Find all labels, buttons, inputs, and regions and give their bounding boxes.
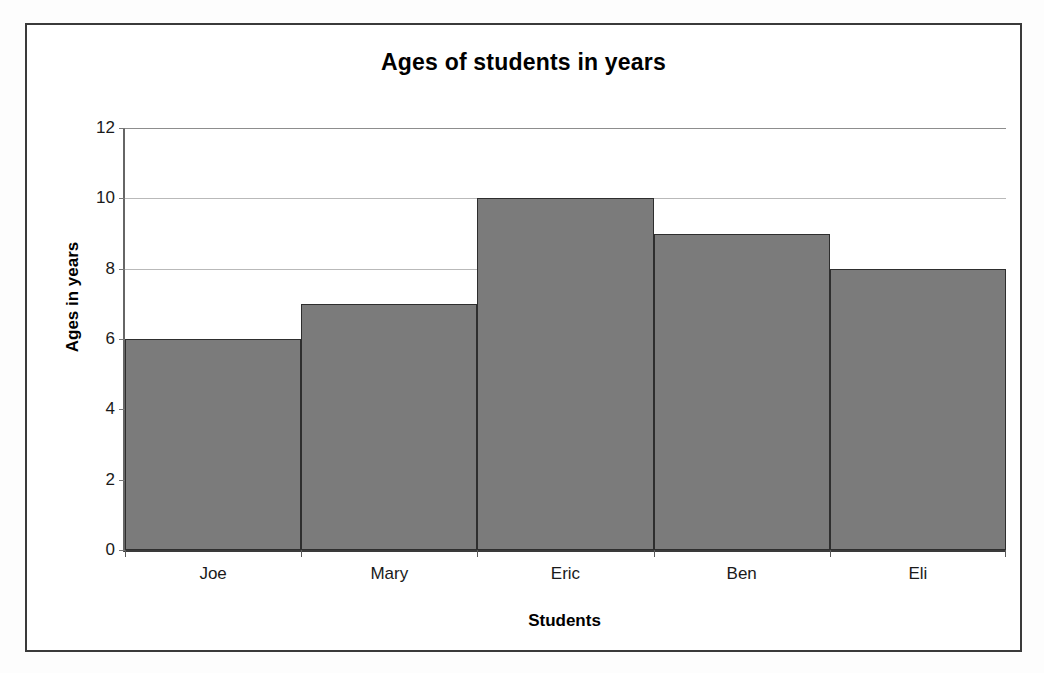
x-tick-mark [477,550,478,557]
x-axis-title: Students [123,611,1006,631]
y-tick-label: 12 [96,118,115,138]
y-tick-label: 0 [106,540,115,560]
y-tick-label: 4 [106,399,115,419]
x-tick-label: Mary [301,564,477,584]
x-tick-label: Joe [125,564,301,584]
x-tick-label: Ben [654,564,830,584]
y-tick-label: 8 [106,259,115,279]
y-axis-title: Ages in years [63,207,83,387]
x-axis-category-labels: JoeMaryEricBenEli [125,128,1006,550]
chart-frame: Ages of students in years Ages in years … [25,23,1022,652]
x-tick-label: Eric [477,564,653,584]
x-tick-mark [301,550,302,557]
x-tick-mark [125,550,126,557]
y-tick-label: 2 [106,470,115,490]
x-tick-label: Eli [830,564,1006,584]
chart-title: Ages of students in years [27,49,1020,76]
y-tick-label: 10 [96,188,115,208]
plot-area: 024681012 JoeMaryEricBenEli [123,128,1006,552]
x-tick-mark [1005,550,1006,557]
x-tick-mark [830,550,831,557]
x-tick-mark [654,550,655,557]
y-tick-label: 6 [106,329,115,349]
